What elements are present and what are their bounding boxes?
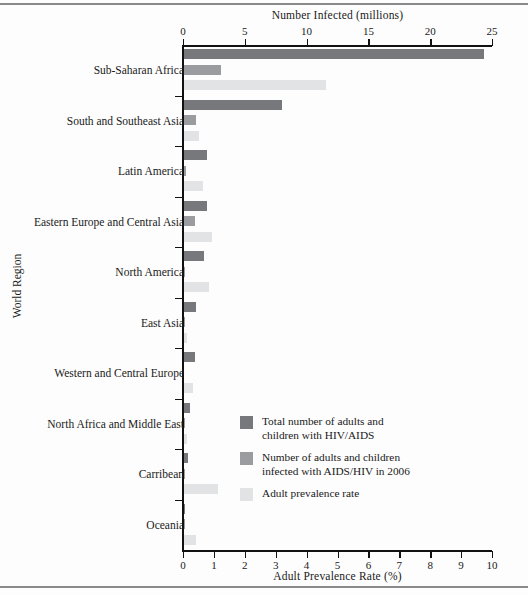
legend-label: Total number of adults andchildren with … [262, 415, 384, 442]
category-label: Carribean [139, 468, 184, 480]
top-axis-tick-label: 10 [301, 25, 312, 37]
top-axis-tick [183, 39, 184, 46]
bottom-axis-tick-label: 10 [487, 559, 498, 571]
legend-label: Adult prevalence rate [262, 487, 359, 501]
bottom-axis-tick [492, 551, 493, 558]
legend-entry: Total number of adults andchildren with … [240, 415, 490, 442]
y-axis-title: World Region [11, 231, 23, 341]
bottom-axis-tick-label: 0 [180, 559, 186, 571]
category-axis-tick [175, 146, 182, 147]
legend-entry: Adult prevalence rate [240, 487, 490, 501]
category-label: Eastern Europe and Central Asia [34, 216, 184, 228]
bottom-axis-tick-label: 3 [273, 559, 279, 571]
bar-total-infected [184, 100, 282, 110]
legend-entry: Number of adults and childreninfected wi… [240, 451, 490, 478]
category-label: Oceania [146, 519, 184, 531]
bar-new-infections-2006 [184, 267, 185, 277]
top-axis-tick-label: 20 [425, 25, 436, 37]
bar-new-infections-2006 [184, 216, 195, 226]
bar-total-infected [184, 150, 207, 160]
bottom-axis-tick [183, 551, 184, 558]
bottom-axis-tick-label: 5 [335, 559, 341, 571]
bottom-axis-tick-label: 2 [242, 559, 248, 571]
bottom-axis-tick [338, 551, 339, 558]
bar-adult-prevalence-rate [184, 80, 326, 90]
category-axis-tick [175, 96, 182, 97]
category-axis-tick [175, 197, 182, 198]
top-axis-tick-label: 15 [363, 25, 374, 37]
bar-adult-prevalence-rate [184, 333, 187, 343]
bar-new-infections-2006 [184, 65, 221, 75]
bottom-axis-tick-label: 9 [458, 559, 464, 571]
legend-label-line: Adult prevalence rate [262, 487, 359, 501]
plot-area: Number Infected (millions) Adult Prevale… [0, 0, 528, 595]
bar-adult-prevalence-rate [184, 535, 196, 545]
bar-adult-prevalence-rate [184, 232, 212, 242]
bottom-axis-tick [368, 551, 369, 558]
bar-adult-prevalence-rate [184, 383, 193, 393]
bar-new-infections-2006 [184, 418, 185, 428]
bar-new-infections-2006 [184, 317, 185, 327]
category-label: North Africa and Middle East [47, 418, 184, 430]
bottom-axis-tick-label: 6 [366, 559, 372, 571]
bar-new-infections-2006 [184, 166, 186, 176]
category-label: Western and Central Europe [54, 367, 184, 379]
top-axis-tick [368, 39, 369, 46]
bar-adult-prevalence-rate [184, 434, 187, 444]
legend-swatch-icon [240, 488, 253, 501]
bottom-axis-tick [307, 551, 308, 558]
bottom-axis-tick [245, 551, 246, 558]
bar-adult-prevalence-rate [184, 484, 218, 494]
bottom-axis-tick-label: 7 [397, 559, 403, 571]
bottom-axis-tick-label: 4 [304, 559, 310, 571]
category-label: South and Southeast Asia [67, 115, 184, 127]
top-axis-tick [492, 39, 493, 46]
top-axis-line [183, 45, 492, 47]
category-axis-tick [175, 449, 182, 450]
legend-swatch-icon [240, 416, 253, 429]
bottom-axis-tick [461, 551, 462, 558]
category-axis-tick [175, 500, 182, 501]
bar-total-infected [184, 251, 204, 261]
bar-total-infected [184, 504, 185, 514]
top-axis-tick [245, 39, 246, 46]
top-axis-title: Number Infected (millions) [183, 9, 492, 21]
bar-total-infected [184, 352, 195, 362]
bar-adult-prevalence-rate [184, 282, 209, 292]
bottom-axis-title: Adult Prevalence Rate (%) [183, 570, 492, 582]
bottom-axis-tick-label: 8 [427, 559, 433, 571]
top-axis-tick [307, 39, 308, 46]
legend-label-line: Number of adults and children [262, 451, 410, 465]
bottom-axis-tick [399, 551, 400, 558]
bar-new-infections-2006 [184, 115, 196, 125]
bar-adult-prevalence-rate [184, 131, 199, 141]
category-label: North America [115, 266, 184, 278]
bottom-axis-tick [430, 551, 431, 558]
figure-container: Number Infected (millions) Adult Prevale… [0, 0, 528, 595]
top-axis-tick-label: 25 [487, 25, 498, 37]
top-axis-tick-label: 5 [242, 25, 248, 37]
bottom-axis-tick-label: 1 [211, 559, 217, 571]
bottom-axis-tick [276, 551, 277, 558]
bar-total-infected [184, 453, 188, 463]
bar-total-infected [184, 201, 207, 211]
top-axis-tick [430, 39, 431, 46]
bar-total-infected [184, 49, 484, 59]
category-axis-tick [175, 247, 182, 248]
category-label: East Asia [141, 317, 184, 329]
legend-swatch-icon [240, 452, 253, 465]
category-axis-tick [175, 399, 182, 400]
category-axis-tick [175, 298, 182, 299]
category-label: Latin America [118, 165, 184, 177]
legend-label-line: infected with AIDS/HIV in 2006 [262, 465, 410, 479]
bar-total-infected [184, 403, 190, 413]
bottom-axis-tick [214, 551, 215, 558]
bar-total-infected [184, 302, 196, 312]
legend-label-line: children with HIV/AIDS [262, 429, 384, 443]
bar-adult-prevalence-rate [184, 181, 203, 191]
category-axis-tick [175, 348, 182, 349]
chart-legend: Total number of adults andchildren with … [240, 415, 490, 510]
top-axis-tick-label: 0 [180, 25, 186, 37]
legend-label: Number of adults and childreninfected wi… [262, 451, 410, 478]
legend-label-line: Total number of adults and [262, 415, 384, 429]
